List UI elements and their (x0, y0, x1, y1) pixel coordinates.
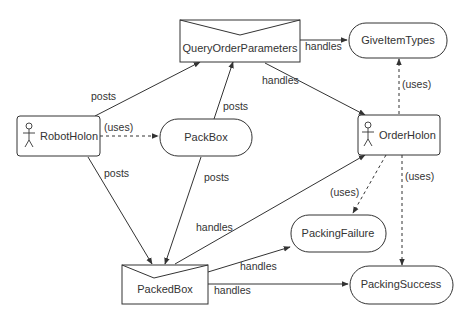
node-label: PackingFailure (302, 227, 375, 239)
node-label: OrderHolon (379, 129, 436, 141)
node-packing-success[interactable]: PackingSuccess (350, 266, 453, 304)
node-label: RobotHolon (40, 130, 98, 142)
node-packed-box[interactable]: PackedBox (122, 265, 208, 304)
node-robot-holon[interactable]: RobotHolon (17, 116, 100, 156)
edge-label-orderholon-packingsuccess: (uses) (405, 170, 434, 182)
edges: handles handles posts posts (uses) (uses… (88, 40, 434, 296)
edge-label-robot-qop: posts (91, 90, 116, 102)
node-label: QueryOrderParameters (183, 42, 298, 54)
edge-label-qop-giveitemtypes: handles (305, 40, 342, 52)
node-label: PackBox (184, 131, 228, 143)
edge-label-packedbox-packingsuccess: handles (214, 284, 251, 296)
edge-label-packedbox-orderholon: handles (196, 221, 233, 233)
edge-label-packedbox-packingfailure: handles (240, 260, 277, 272)
node-packing-failure[interactable]: PackingFailure (291, 215, 386, 252)
edge-packbox-packedbox (165, 157, 201, 264)
edge-qop-orderholon (265, 63, 365, 115)
edge-label-qop-orderholon: handles (262, 74, 299, 86)
edge-label-orderholon-packingfailure: (uses) (330, 186, 359, 198)
edge-label-orderholon-giveitemtypes: (uses) (402, 78, 431, 90)
edge-label-packbox-qop: posts (223, 100, 248, 112)
edge-label-robot-packbox: (uses) (104, 121, 133, 133)
node-label: PackedBox (137, 283, 193, 295)
node-give-item-types[interactable]: GiveItemTypes (349, 23, 447, 58)
edge-label-packbox-packedbox: posts (204, 171, 229, 183)
edge-orderholon-packingfailure (353, 155, 386, 213)
node-pack-box[interactable]: PackBox (160, 119, 252, 156)
node-label: PackingSuccess (361, 278, 442, 290)
edge-label-robot-packedbox: posts (104, 167, 129, 179)
envelope-shape (180, 20, 300, 62)
edge-robot-qop (95, 62, 200, 116)
node-query-order-parameters[interactable]: QueryOrderParameters (180, 20, 300, 62)
diagram-canvas: handles handles posts posts (uses) (uses… (0, 0, 468, 320)
node-order-holon[interactable]: OrderHolon (358, 115, 440, 155)
node-label: GiveItemTypes (361, 34, 435, 46)
